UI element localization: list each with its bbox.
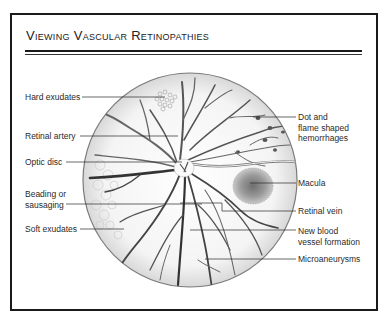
- label-hemorrhages-line2: flame shaped: [298, 123, 349, 134]
- label-hemorrhages-line3: hemorrhages: [298, 133, 349, 144]
- label-beading-line1: Beading or: [25, 189, 66, 200]
- label-hard-exudates: Hard exudates: [25, 92, 80, 103]
- macula: [233, 168, 273, 204]
- label-microaneurysms: Microaneurysms: [298, 254, 360, 265]
- label-new-blood-vessel-formation: New blood vessel formation: [298, 226, 360, 247]
- label-new-vessel-line1: New blood: [298, 226, 360, 237]
- label-hemorrhages-line1: Dot and: [298, 112, 349, 123]
- label-new-vessel-line2: vessel formation: [298, 237, 360, 248]
- label-macula: Macula: [298, 178, 325, 189]
- label-soft-exudates: Soft exudates: [25, 224, 77, 235]
- label-beading-line2: sausaging: [25, 200, 66, 211]
- label-dot-flame-hemorrhages: Dot and flame shaped hemorrhages: [298, 112, 349, 144]
- label-retinal-vein: Retinal vein: [298, 206, 342, 217]
- label-optic-disc: Optic disc: [25, 157, 62, 168]
- label-beading-or-sausaging: Beading or sausaging: [25, 189, 66, 210]
- label-retinal-artery: Retinal artery: [25, 131, 76, 142]
